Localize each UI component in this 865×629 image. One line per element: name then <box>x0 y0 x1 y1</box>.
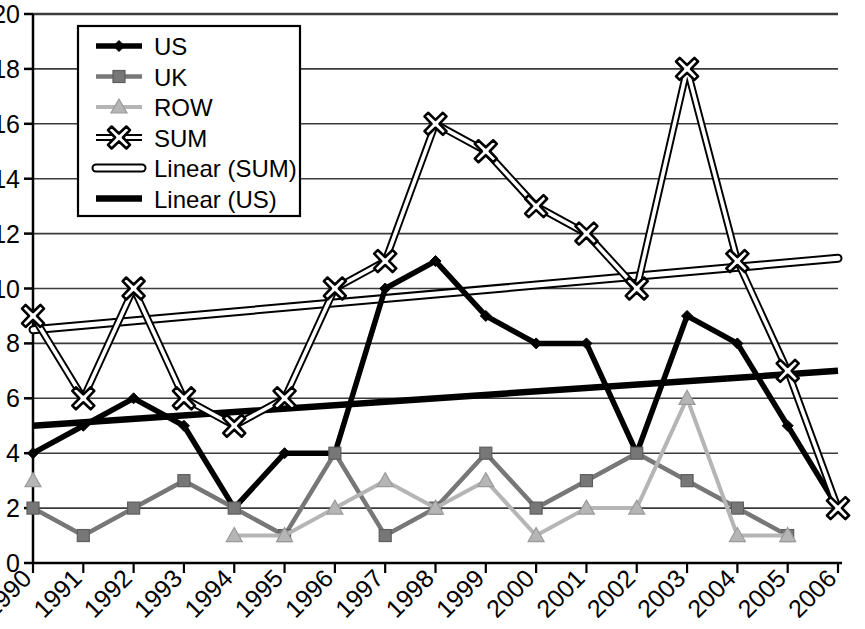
y-tick-label: 8 <box>6 329 20 357</box>
y-tick-label: 18 <box>0 55 20 83</box>
data-point-row <box>25 473 41 487</box>
y-tick-label: 16 <box>0 110 20 138</box>
legend-label: US <box>154 33 187 60</box>
data-point-uk <box>228 502 240 514</box>
data-point-uk <box>530 502 542 514</box>
data-point-uk <box>27 502 39 514</box>
data-point-uk <box>77 530 89 542</box>
y-tick-labels: 02468101214161820 <box>0 0 33 577</box>
data-point-uk <box>580 475 592 487</box>
data-point-uk <box>631 447 643 459</box>
legend-label: SUM <box>154 125 207 152</box>
x-tick-label: 2002 <box>581 564 640 623</box>
data-point-uk <box>329 447 341 459</box>
x-tick-labels: 1990199119921993199419951996199719981999… <box>0 563 842 623</box>
legend-label: ROW <box>154 94 213 121</box>
y-tick-label: 14 <box>0 165 20 193</box>
data-point-uk <box>681 475 693 487</box>
x-tick-label: 1997 <box>330 564 389 623</box>
chart-canvas: 02468101214161820 1990199119921993199419… <box>0 0 865 629</box>
y-tick-label: 2 <box>6 494 20 522</box>
data-point-uk <box>731 502 743 514</box>
y-tick-label: 20 <box>0 0 20 28</box>
x-tick-label: 1993 <box>128 564 187 623</box>
y-tick-label: 10 <box>0 275 20 303</box>
x-tick-label: 1992 <box>78 564 137 623</box>
series-line <box>234 398 787 535</box>
data-point-row <box>377 473 393 487</box>
y-tick-label: 12 <box>0 220 20 248</box>
x-tick-label: 2006 <box>782 564 841 623</box>
x-tick-label: 2004 <box>682 564 741 623</box>
legend: USUKROWSUMLinear (SUM)Linear (US) <box>78 26 300 216</box>
data-point-uk <box>379 530 391 542</box>
data-point-row <box>679 390 695 404</box>
data-point-uk <box>480 447 492 459</box>
trendline-sum-fill <box>33 258 838 329</box>
legend-marker-square <box>113 71 125 83</box>
x-tick-label: 2005 <box>732 564 791 623</box>
data-point-uk <box>128 502 140 514</box>
data-point-uk <box>178 475 190 487</box>
legend-label: UK <box>154 64 187 91</box>
x-tick-label: 1994 <box>179 564 238 623</box>
y-tick-label: 4 <box>6 439 20 467</box>
line-chart: 02468101214161820 1990199119921993199419… <box>0 0 865 629</box>
x-tick-label: 2000 <box>481 564 540 623</box>
legend-label: Linear (US) <box>154 186 277 213</box>
x-tick-label: 1996 <box>279 564 338 623</box>
x-tick-label: 1998 <box>380 564 439 623</box>
x-tick-label: 1999 <box>430 564 489 623</box>
x-tick-label: 1995 <box>229 564 288 623</box>
x-tick-label: 1991 <box>28 564 87 623</box>
legend-label: Linear (SUM) <box>154 155 297 182</box>
trendlines <box>33 258 838 425</box>
y-tick-label: 6 <box>6 384 20 412</box>
series-row <box>25 390 796 541</box>
x-tick-label: 2001 <box>531 564 590 623</box>
data-point-row <box>478 473 494 487</box>
x-tick-label: 2003 <box>631 564 690 623</box>
